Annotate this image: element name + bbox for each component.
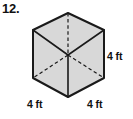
geometry-figure: 12. 4 ft 4 ft 4 ft [0,0,133,119]
dimension-label-depth: 4 ft [27,99,42,110]
dimension-label-height: 4 ft [107,51,122,62]
dimension-label-width: 4 ft [87,99,102,110]
